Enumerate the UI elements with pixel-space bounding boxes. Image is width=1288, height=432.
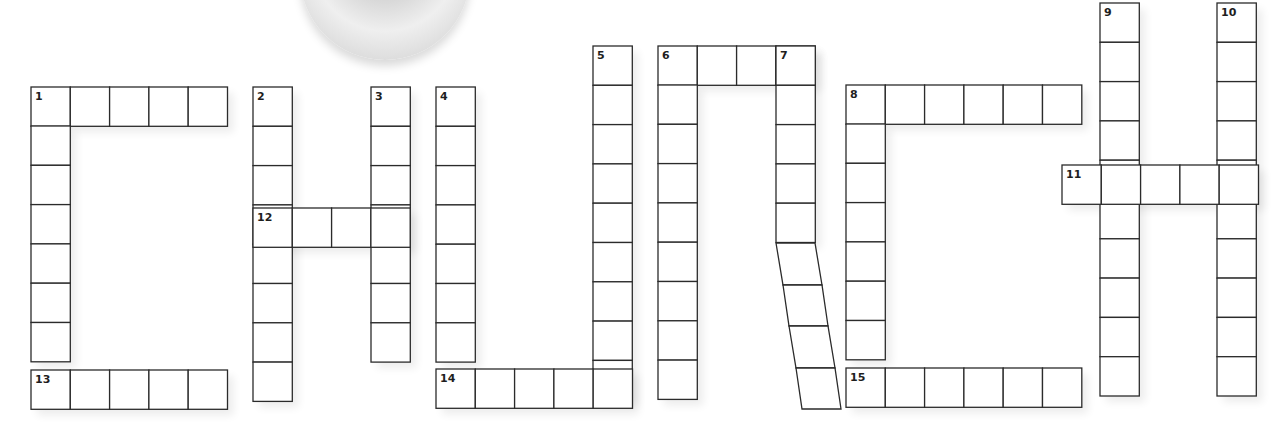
crossword-cell[interactable] — [1003, 368, 1042, 407]
crossword-cell[interactable] — [593, 164, 632, 203]
crossword-cell[interactable] — [436, 284, 475, 323]
crossword-cell[interactable] — [789, 326, 835, 368]
crossword-cell[interactable] — [885, 85, 924, 124]
crossword-cell[interactable] — [253, 126, 292, 165]
crossword-cell[interactable] — [925, 85, 964, 124]
crossword-cell[interactable] — [1100, 357, 1139, 396]
crossword-cell[interactable] — [436, 323, 475, 362]
crossword-cell[interactable] — [436, 244, 475, 283]
crossword-cell[interactable] — [1003, 85, 1042, 124]
crossword-cell[interactable] — [658, 124, 697, 163]
crossword-cell[interactable] — [1062, 165, 1101, 204]
crossword-cell[interactable] — [593, 243, 632, 282]
crossword-cell[interactable] — [1219, 165, 1258, 204]
crossword-cell[interactable] — [1180, 165, 1219, 204]
crossword-cell[interactable] — [70, 370, 109, 409]
crossword-cell[interactable] — [1217, 121, 1256, 160]
crossword-cell[interactable] — [776, 125, 815, 164]
crossword-cell[interactable] — [1100, 239, 1139, 278]
crossword-cell[interactable] — [1100, 42, 1139, 81]
crossword-cell[interactable] — [70, 87, 109, 126]
crossword-cell[interactable] — [1043, 85, 1082, 124]
crossword-cell[interactable] — [371, 126, 410, 165]
crossword-cell[interactable] — [593, 282, 632, 321]
crossword-cell[interactable] — [1217, 42, 1256, 81]
crossword-cell[interactable] — [554, 369, 593, 408]
crossword-cell[interactable] — [31, 87, 70, 126]
crossword-cell[interactable] — [188, 370, 227, 409]
crossword-cell[interactable] — [436, 205, 475, 244]
crossword-cell[interactable] — [371, 244, 410, 283]
crossword-cell[interactable] — [253, 166, 292, 205]
crossword-cell[interactable] — [964, 85, 1003, 124]
crossword-cell[interactable] — [846, 321, 885, 360]
crossword-cell[interactable] — [436, 166, 475, 205]
crossword-cell[interactable] — [149, 87, 188, 126]
crossword-cell[interactable] — [110, 370, 149, 409]
crossword-cell[interactable] — [846, 85, 885, 124]
crossword-cell[interactable] — [846, 242, 885, 281]
crossword-cell[interactable] — [776, 203, 815, 242]
crossword-cell[interactable] — [658, 164, 697, 203]
crossword-cell[interactable] — [783, 285, 828, 326]
crossword-cell[interactable] — [371, 284, 410, 323]
crossword-cell[interactable] — [776, 85, 815, 124]
crossword-cell[interactable] — [658, 203, 697, 242]
crossword-cell[interactable] — [1217, 278, 1256, 317]
crossword-cell[interactable] — [436, 126, 475, 165]
crossword-cell[interactable] — [658, 85, 697, 124]
crossword-cell[interactable] — [593, 85, 632, 124]
crossword-cell[interactable] — [110, 87, 149, 126]
crossword-cell[interactable] — [31, 323, 70, 362]
crossword-cell[interactable] — [1100, 82, 1139, 121]
crossword-cell[interactable] — [658, 282, 697, 321]
crossword-cell[interactable] — [846, 163, 885, 202]
crossword-cell[interactable] — [593, 369, 632, 408]
crossword-cell[interactable] — [1101, 165, 1140, 204]
crossword-cell[interactable] — [846, 281, 885, 320]
crossword-cell[interactable] — [697, 46, 736, 85]
crossword-cell[interactable] — [149, 370, 188, 409]
crossword-cell[interactable] — [1141, 165, 1180, 204]
crossword-cell[interactable] — [1217, 317, 1256, 356]
crossword-cell[interactable] — [658, 360, 697, 399]
crossword-cell[interactable] — [885, 368, 924, 407]
crossword-cell[interactable] — [371, 323, 410, 362]
crossword-cell[interactable] — [1100, 317, 1139, 356]
crossword-cell[interactable] — [332, 208, 371, 247]
crossword-cell[interactable] — [371, 166, 410, 205]
crossword-cell[interactable] — [737, 46, 776, 85]
crossword-cell[interactable] — [846, 203, 885, 242]
crossword-cell[interactable] — [593, 321, 632, 360]
crossword-cell[interactable] — [846, 368, 885, 407]
crossword-cell[interactable] — [31, 205, 70, 244]
crossword-cell[interactable] — [1100, 278, 1139, 317]
crossword-cell[interactable] — [1217, 239, 1256, 278]
crossword-cell[interactable] — [253, 208, 292, 247]
crossword-cell[interactable] — [846, 124, 885, 163]
crossword-cell[interactable] — [253, 284, 292, 323]
crossword-cell[interactable] — [776, 243, 822, 285]
crossword-cell[interactable] — [515, 369, 554, 408]
crossword-cell[interactable] — [1217, 82, 1256, 121]
crossword-cell[interactable] — [1043, 368, 1082, 407]
crossword-cell[interactable] — [593, 46, 632, 85]
crossword-cell[interactable] — [593, 203, 632, 242]
crossword-cell[interactable] — [253, 323, 292, 362]
crossword-cell[interactable] — [1100, 3, 1139, 42]
crossword-cell[interactable] — [436, 87, 475, 126]
crossword-cell[interactable] — [31, 126, 70, 165]
crossword-cell[interactable] — [658, 242, 697, 281]
crossword-cell[interactable] — [371, 208, 410, 247]
crossword-cell[interactable] — [796, 368, 841, 409]
crossword-cell[interactable] — [658, 46, 697, 85]
crossword-cell[interactable] — [964, 368, 1003, 407]
crossword-cell[interactable] — [776, 164, 815, 203]
crossword-cell[interactable] — [31, 370, 70, 409]
crossword-cell[interactable] — [658, 321, 697, 360]
crossword-cell[interactable] — [593, 125, 632, 164]
crossword-cell[interactable] — [1217, 200, 1256, 239]
crossword-cell[interactable] — [475, 369, 514, 408]
crossword-cell[interactable] — [253, 362, 292, 401]
crossword-cell[interactable] — [31, 283, 70, 322]
